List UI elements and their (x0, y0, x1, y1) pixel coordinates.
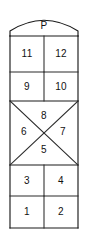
cell-label-6: 6 (21, 127, 27, 137)
cell-label-3: 3 (24, 176, 30, 186)
cell-label-2: 2 (58, 207, 64, 217)
cell-label-p: P (41, 21, 48, 31)
cell-label-5: 5 (41, 145, 47, 155)
hopscotch-court-diagram: P 11 12 9 10 8 6 7 5 3 4 1 2 (0, 0, 85, 240)
cell-label-9: 9 (24, 82, 30, 92)
cell-label-7: 7 (60, 127, 66, 137)
cell-label-10: 10 (55, 82, 67, 92)
cell-label-8: 8 (41, 111, 47, 121)
cell-label-12: 12 (55, 49, 67, 59)
cell-label-1: 1 (24, 207, 30, 217)
cell-label-11: 11 (22, 49, 33, 59)
cell-label-4: 4 (58, 176, 64, 186)
